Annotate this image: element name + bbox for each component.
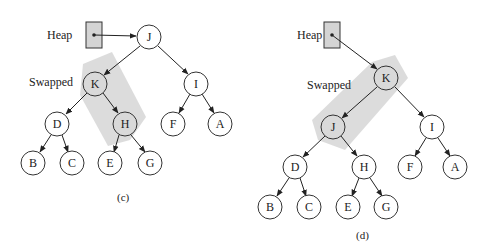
node-label: B	[258, 195, 282, 219]
node-label: K	[83, 72, 107, 96]
heap-label-d: Heap	[297, 29, 322, 41]
node-label: F	[161, 112, 185, 136]
swapped-label-d: Swapped	[307, 79, 351, 91]
node-label: H	[113, 112, 137, 136]
heap-label-c: Heap	[47, 29, 72, 41]
node-label: E	[336, 195, 360, 219]
node-label: G	[138, 151, 162, 175]
node-label: A	[443, 155, 467, 179]
heap-pointer-box-c	[86, 22, 136, 48]
node-label: A	[208, 112, 232, 136]
node-label: J	[137, 25, 161, 49]
node-label: E	[98, 151, 122, 175]
node-label: D	[45, 112, 69, 136]
node-label: K	[374, 66, 398, 90]
node-label: C	[60, 151, 84, 175]
caption-d: (d)	[356, 230, 369, 241]
caption-c: (c)	[117, 192, 129, 203]
node-label: I	[420, 115, 444, 139]
node-label: F	[398, 155, 422, 179]
node-label: B	[21, 151, 45, 175]
node-label: J	[321, 115, 345, 139]
node-label: C	[297, 195, 321, 219]
node-label: D	[283, 155, 307, 179]
swapped-label-c: Swapped	[29, 76, 73, 88]
node-label: G	[374, 195, 398, 219]
node-label: I	[184, 72, 208, 96]
node-label: H	[352, 155, 376, 179]
heap-pointer-box-d	[324, 22, 377, 69]
tree-diagram-c	[0, 0, 490, 246]
